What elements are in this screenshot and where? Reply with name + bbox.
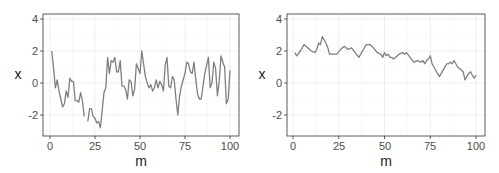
chart-figure: 4 2 0 -2 0 25 50 75 100 m x 4 2 0 -2 0 2… [0,0,499,173]
x-tick-label: 0 [290,140,296,152]
y-tick-label: 4 [276,13,282,25]
x-tick-label: 75 [179,140,191,152]
x-tick-label: 100 [467,140,485,152]
y-tick-label: -2 [272,109,282,121]
y-tick-label: 2 [276,45,282,57]
y-tick-label: 0 [276,77,282,89]
y-tick-label: 4 [32,13,38,25]
x-tick-label: 25 [333,140,345,152]
plot-background [287,14,485,136]
x-tick-label: 100 [221,140,239,152]
y-axis-title: x [15,66,22,82]
y-tick-label: 0 [32,77,38,89]
x-tick-label: 25 [89,140,101,152]
y-tick-label: 2 [32,45,38,57]
right-chart-panel: 4 2 0 -2 0 25 50 75 100 m x [259,13,486,169]
left-chart-panel: 4 2 0 -2 0 25 50 75 100 m x [15,13,240,169]
x-axis-title: m [380,153,392,169]
x-tick-label: 50 [134,140,146,152]
y-tick-label: -2 [28,109,38,121]
y-axis-title: x [259,66,266,82]
x-tick-label: 50 [379,140,391,152]
x-tick-label: 75 [424,140,436,152]
x-axis-title: m [135,153,147,169]
x-tick-label: 0 [47,140,53,152]
